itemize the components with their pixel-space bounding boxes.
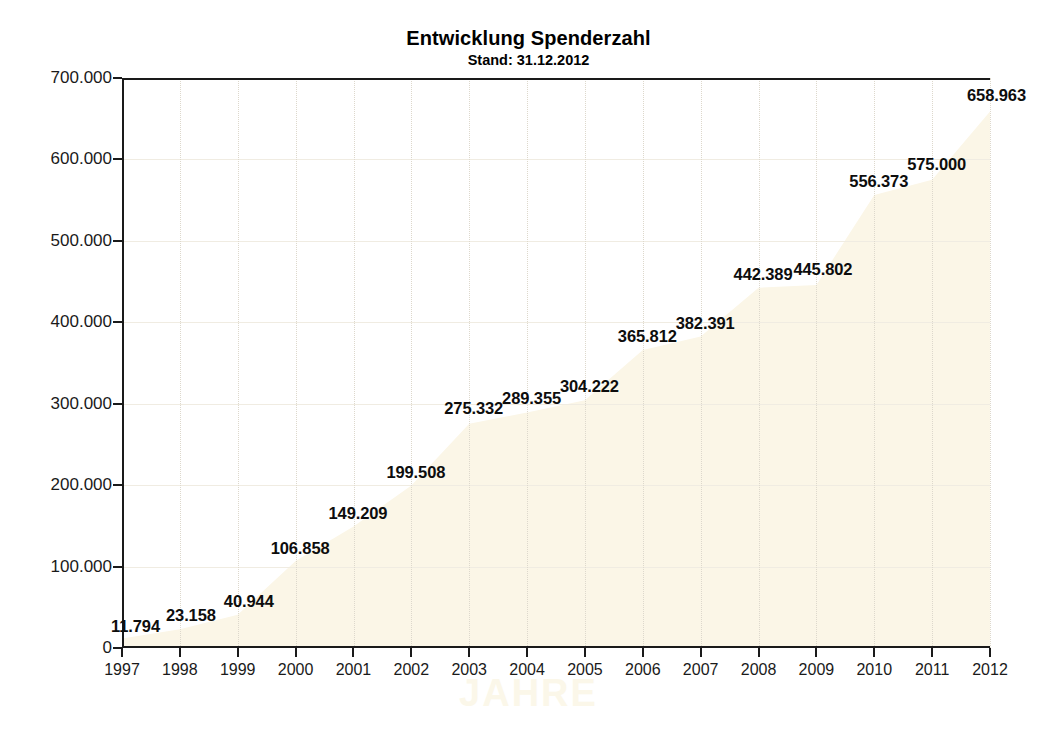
x-axis-tick-mark [468,648,470,657]
chart-container: Entwicklung Spenderzahl Stand: 31.12.201… [0,0,1057,730]
y-axis-tick-label: 600.000 [2,150,112,168]
y-axis-tick-label: 100.000 [2,558,112,576]
x-axis-tick-mark [815,648,817,657]
gridline-vertical [180,78,182,648]
x-axis-tick-mark [989,648,991,657]
y-axis-tick-label: 0 [2,639,112,657]
y-axis-tick-mark [113,240,122,242]
x-axis-tick-mark [352,648,354,657]
gridline-horizontal [122,322,990,323]
x-axis-tick-mark [584,648,586,657]
x-axis-line [122,646,990,648]
data-point-label: 382.391 [676,314,735,333]
data-point-label: 149.209 [329,504,388,523]
data-point-label: 442.389 [734,265,793,284]
gridline-vertical [874,78,876,648]
gridline-vertical [527,78,529,648]
data-point-label: 658.963 [967,86,1026,105]
gridline-vertical [296,78,298,648]
gridline-vertical [759,78,761,648]
data-point-label: 106.858 [271,539,330,558]
gridline-horizontal [122,159,990,160]
y-axis-tick-mark [113,77,122,79]
y-axis-tick-mark [113,647,122,649]
data-point-label: 40.944 [224,592,274,611]
y-axis-tick-mark [113,403,122,405]
data-point-label: 11.794 [111,617,160,636]
gridline-vertical [701,78,703,648]
chart-subtitle: Stand: 31.12.2012 [0,51,1057,69]
x-axis-tick-mark [179,648,181,657]
x-axis-tick-mark [121,648,123,657]
y-axis-tick-mark [113,158,122,160]
x-axis-tick-mark [295,648,297,657]
data-point-label: 23.158 [166,606,216,625]
plot-frame-top [122,78,990,80]
y-axis-tick-mark [113,566,122,568]
gridline-vertical [585,78,587,648]
y-axis-tick-label: 300.000 [2,395,112,413]
y-axis-tick-label: 200.000 [2,476,112,494]
x-axis-tick-mark [931,648,933,657]
gridline-vertical [411,78,413,648]
y-axis-labels: 0100.000200.000300.000400.000500.000600.… [0,78,112,648]
page-title: Entwicklung Spenderzahl [0,26,1057,50]
x-axis-tick-mark [642,648,644,657]
gridline-vertical [816,78,818,648]
gridline-vertical [469,78,471,648]
data-point-label: 199.508 [386,463,445,482]
x-axis-tick-mark [410,648,412,657]
y-axis-tick-mark [113,484,122,486]
data-point-label: 304.222 [560,377,619,396]
plot-area [122,78,990,648]
data-point-label: 556.373 [849,172,908,191]
gridline-horizontal [122,241,990,242]
gridline-vertical [238,78,240,648]
y-axis-tick-mark [113,321,122,323]
gridline-horizontal [122,567,990,568]
area-series [122,78,990,648]
y-axis-tick-label: 400.000 [2,313,112,331]
data-point-label: 575.000 [907,155,966,174]
data-point-label: 289.355 [502,389,561,408]
gridline-vertical [354,78,356,648]
data-point-label: 275.332 [444,399,503,418]
x-axis-tick-mark [873,648,875,657]
gridline-horizontal [122,485,990,486]
data-point-label: 445.802 [793,260,852,279]
x-axis-tick-mark [700,648,702,657]
chart-title-block: Entwicklung Spenderzahl Stand: 31.12.201… [0,26,1057,69]
data-point-label: 365.812 [618,327,677,346]
axis-watermark: JAHRE [0,672,1057,715]
gridline-vertical [990,78,992,648]
gridline-vertical [643,78,645,648]
x-axis-tick-mark [758,648,760,657]
y-axis-tick-label: 700.000 [2,69,112,87]
plot-frame-left [122,78,124,648]
x-axis-tick-mark [526,648,528,657]
y-axis-tick-label: 500.000 [2,232,112,250]
x-axis-tick-mark [237,648,239,657]
